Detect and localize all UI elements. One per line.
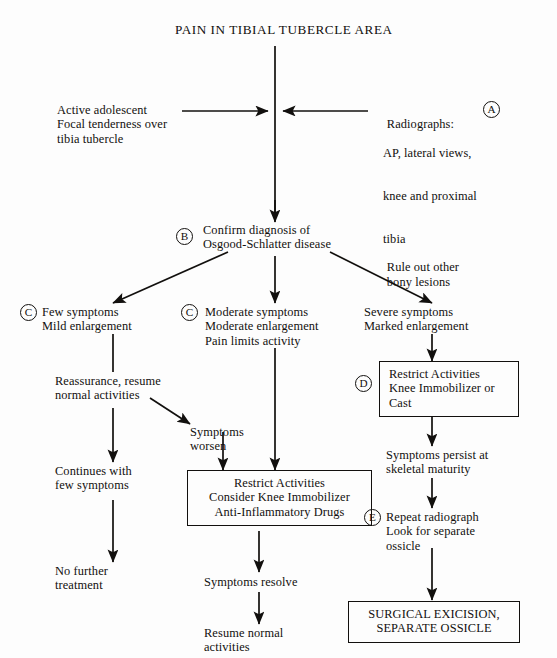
node-repeat-radiograph: Repeat radiograph Look for separate ossi… [386,510,479,553]
marker-c-moderate: C [181,304,198,321]
marker-a: A [483,101,500,118]
node-radiographs: Radiographs: AP, lateral views, knee and… [374,103,477,303]
node-no-further-treatment: No further treatment [55,564,108,593]
node-restrict-activities-moderate: Restrict Activities Consider Knee Immobi… [187,470,372,526]
marker-c-mild: C [20,304,37,321]
marker-e: E [364,509,381,526]
node-surgical-excision: SURGICAL EXICISION, SEPARATE OSSICLE [348,601,520,643]
flowchart-canvas: PAIN IN TIBIAL TUBERCLE AREA Active adol… [0,0,557,658]
node-symptoms-persist: Symptoms persist at skeletal maturity [386,448,488,477]
radiographs-line-6: bony lesions [387,275,451,289]
radiographs-line-1: Radiographs: [387,117,454,131]
node-severe-symptoms: Severe symptoms Marked enlargement [364,305,468,334]
node-continues-few-symptoms: Continues with few symptoms [55,464,132,493]
radiographs-line-5: Rule out other [387,260,459,274]
marker-d: D [355,375,372,392]
node-moderate-symptoms: Moderate symptoms Moderate enlargement P… [205,305,319,348]
node-restrict-activities-severe: Restrict Activities Knee Immobilizer or … [379,361,519,417]
radiographs-line-2: AP, lateral views, [374,146,477,160]
node-resume-normal-activities: Resume normal activities [204,626,283,655]
node-confirm-diagnosis: Confirm diagnosis of Osgood-Schlatter di… [203,223,331,252]
edge-confirm-to-mild [113,252,228,303]
marker-b: B [176,228,193,245]
radiographs-line-4: tibia [374,232,477,246]
node-few-symptoms: Few symptoms Mild enlargement [42,305,132,334]
node-symptoms-resolve: Symptoms resolve [204,575,298,589]
node-symptoms-worsen: Symptoms worsen [190,425,244,454]
node-reassurance: Reassurance, resume normal activities [55,374,161,403]
radiographs-line-3: knee and proximal [374,189,477,203]
node-history: Active adolescent Focal tenderness over … [57,103,167,146]
chart-title: PAIN IN TIBIAL TUBERCLE AREA [175,22,375,38]
